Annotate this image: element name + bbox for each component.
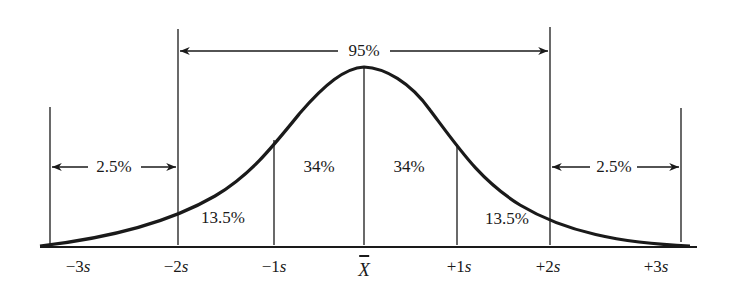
tick-minus-1s: −1s: [262, 258, 287, 275]
tick-mean-xbar: X: [358, 260, 370, 279]
tick-plus-1s: +1s: [447, 258, 472, 275]
label-95-percent: 95%: [348, 42, 379, 59]
bell-curve: [40, 67, 690, 246]
label-left-13-5: 13.5%: [201, 209, 245, 226]
tick-plus-3s: +3s: [644, 258, 669, 275]
label-right-13-5: 13.5%: [485, 210, 529, 227]
label-right-34: 34%: [393, 158, 424, 175]
tick-plus-2s: +2s: [536, 258, 561, 275]
label-right-tail: 2.5%: [596, 158, 631, 175]
label-left-tail: 2.5%: [96, 158, 131, 175]
tick-minus-3s: −3s: [66, 258, 91, 275]
tick-minus-2s: −2s: [164, 258, 189, 275]
label-left-34: 34%: [303, 158, 334, 175]
